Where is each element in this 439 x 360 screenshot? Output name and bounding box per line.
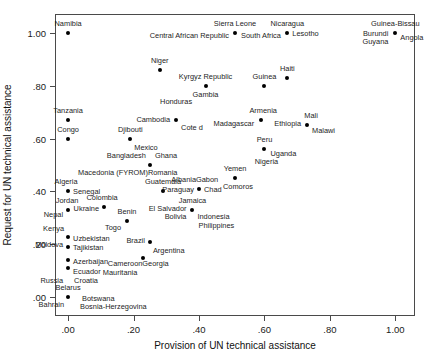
data-point[interactable] — [125, 219, 129, 223]
y-tick-mark — [50, 33, 55, 34]
y-tick-label: 1.00 — [0, 27, 46, 38]
point-label: Nicaragua — [271, 20, 305, 28]
point-label: Bolivia — [165, 213, 187, 221]
point-label: Sierra Leone — [214, 20, 256, 28]
scatter-chart: Request for UN technical assistance Prov… — [0, 0, 439, 360]
point-label: South Africa — [241, 32, 281, 40]
point-label: Honduras — [160, 98, 192, 106]
y-axis-title-wrap: Request for UN technical assistance — [2, 14, 16, 316]
point-label: Namibia — [55, 20, 82, 28]
data-point[interactable] — [393, 31, 397, 35]
x-tick-mark — [68, 316, 69, 321]
point-label: Cameroon — [108, 260, 143, 268]
point-label: Guinea — [253, 73, 277, 81]
data-point[interactable] — [285, 31, 289, 35]
point-label: Togo — [105, 224, 121, 232]
point-label: Comoros — [223, 183, 253, 191]
point-label: Nepal — [44, 211, 63, 219]
point-label: Gambia — [193, 91, 219, 99]
x-tick-mark — [330, 316, 331, 321]
y-axis-title: Request for UN technical assistance — [2, 14, 16, 316]
point-label: Malawi — [312, 127, 335, 135]
x-tick-mark — [134, 316, 135, 321]
data-point[interactable] — [66, 31, 70, 35]
point-label: Philippines — [198, 222, 234, 230]
data-point[interactable] — [148, 240, 152, 244]
point-label: Djibouti — [118, 126, 143, 134]
y-tick-label: .80 — [0, 80, 46, 91]
point-label: Mauritania — [103, 269, 138, 277]
point-label: Brazil — [126, 237, 144, 245]
point-label: Ethiopia — [274, 120, 301, 128]
x-tick-label: 1.00 — [386, 324, 405, 335]
point-label: Colombia — [86, 194, 117, 202]
x-tick-label: .60 — [258, 324, 271, 335]
point-label: Peru — [257, 136, 273, 144]
x-tick-label: .20 — [127, 324, 140, 335]
x-tick-mark — [395, 316, 396, 321]
data-point[interactable] — [204, 84, 208, 88]
point-label: Chad — [204, 186, 222, 194]
point-label: Albania — [171, 176, 196, 184]
point-label: Belarus — [56, 284, 81, 292]
y-tick-mark — [50, 297, 55, 298]
y-tick-mark — [50, 191, 55, 192]
data-point[interactable] — [148, 163, 152, 167]
point-label: Armenia — [249, 107, 277, 115]
point-label: Macedonia (FYROM) — [78, 169, 148, 177]
point-label: Haiti — [280, 65, 295, 73]
point-label: Tanzania — [53, 107, 83, 115]
point-label: Algeria — [55, 178, 78, 186]
point-label: Cambodia — [136, 116, 170, 124]
point-label: Benin — [118, 208, 137, 216]
y-tick-mark — [50, 139, 55, 140]
data-point[interactable] — [233, 31, 237, 35]
data-point[interactable] — [128, 137, 132, 141]
x-tick-mark — [264, 316, 265, 321]
point-label: Uzbekistan — [73, 235, 110, 243]
data-point[interactable] — [66, 118, 70, 122]
point-label: Cote d — [181, 124, 203, 132]
data-point[interactable] — [174, 118, 178, 122]
point-label: Kenya — [43, 225, 64, 233]
y-tick-mark — [50, 86, 55, 87]
point-label: Ecuador — [73, 268, 101, 276]
point-label: Indonesia — [197, 213, 229, 221]
point-label: Congo — [57, 126, 79, 134]
point-label: Mali — [304, 112, 318, 120]
point-label: Bangladesh — [107, 152, 146, 160]
data-point[interactable] — [158, 68, 162, 72]
x-tick-label: .80 — [323, 324, 336, 335]
point-label: Tajikistan — [73, 244, 103, 252]
x-axis-title: Provision of UN technical assistance — [55, 340, 415, 351]
point-label: Gabon — [196, 176, 218, 184]
point-label: Ghana — [155, 152, 177, 160]
point-label: Azerbaijan — [73, 258, 108, 266]
x-tick-label: .00 — [61, 324, 74, 335]
point-label: Kyrgyz Republic — [179, 73, 232, 81]
point-label: Guyana — [362, 38, 388, 46]
y-tick-label: .40 — [0, 186, 46, 197]
point-label: Central African Republic — [150, 32, 229, 40]
x-tick-label: .40 — [192, 324, 205, 335]
x-tick-mark — [199, 316, 200, 321]
point-label: Paraguay — [162, 186, 194, 194]
point-label: Yemen — [224, 165, 247, 173]
point-label: Bahrain — [39, 301, 64, 309]
point-label: Lesotho — [292, 30, 318, 38]
data-point[interactable] — [197, 187, 201, 191]
point-label: Moldova — [35, 241, 63, 249]
point-label: Angola — [400, 34, 423, 42]
point-label: Argentina — [153, 247, 185, 255]
point-label: Madagascar — [214, 120, 255, 128]
point-label: Niger — [151, 57, 169, 65]
point-label: Ukraine — [74, 205, 99, 213]
point-label: Nigeria — [255, 158, 278, 166]
data-point[interactable] — [66, 235, 70, 239]
point-label: Georgia — [142, 260, 168, 268]
y-tick-label: .60 — [0, 133, 46, 144]
point-label: Bosnia-Herzegovina — [80, 303, 147, 311]
data-point[interactable] — [66, 137, 70, 141]
point-label: Guinea-Bissau — [371, 20, 419, 28]
